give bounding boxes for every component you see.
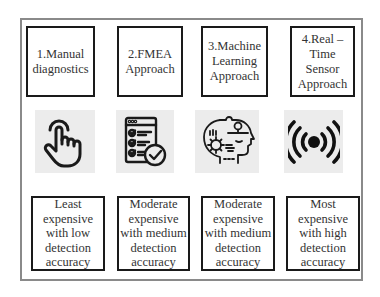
approach-description-text: Most expensive with high detection accur… [298, 197, 348, 270]
approach-description-fmea: Moderate expensive with medium detection… [117, 196, 190, 271]
approach-title-real-time-sensor: 4.Real – Time Sensor Approach [290, 26, 355, 97]
approach-title-machine-learning: 3.Machine Learning Approach [201, 26, 268, 97]
approach-description-manual-diagnostics: Least expensive with low detection accur… [31, 196, 105, 271]
approach-description-machine-learning: Moderate expensive with medium detection… [201, 196, 275, 271]
approach-title-manual-diagnostics: 1.Manual diagnostics [26, 26, 95, 97]
approach-title-text: 3.Machine Learning Approach [208, 39, 261, 84]
approach-title-text: 1.Manual diagnostics [32, 47, 88, 77]
brain-gear-head-icon [195, 110, 259, 173]
checklist-icon [116, 110, 174, 173]
approach-description-text: Moderate expensive with medium detection… [205, 197, 271, 270]
approach-title-text: 2.FMEA Approach [125, 47, 174, 77]
sensor-signal-icon [284, 110, 343, 173]
approach-description-text: Least expensive with low detection accur… [43, 197, 93, 270]
hand-pointer-icon [35, 110, 95, 173]
approach-description-text: Moderate expensive with medium detection… [120, 197, 186, 270]
approach-title-text: 4.Real – Time Sensor Approach [298, 32, 347, 92]
approach-title-fmea: 2.FMEA Approach [117, 26, 183, 97]
approach-description-real-time-sensor: Most expensive with high detection accur… [286, 196, 360, 271]
